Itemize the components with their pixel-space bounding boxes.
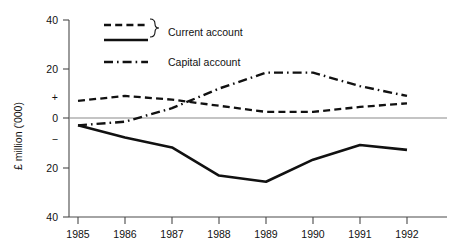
y-axis-title: £ million ('000) [12,102,24,170]
legend-brace-icon [150,19,159,37]
balance-of-payments-line-chart: 40 20 + 0 − 20 40 £ million ('000) 1985 … [0,0,459,249]
y-tick-label: 20 [46,63,58,75]
series-current-account-solid [78,125,407,181]
legend-label-capital-account: Capital account [168,56,240,68]
x-tick-label: 1990 [301,228,325,240]
y-tick-label: 20 [46,162,58,174]
chart-root: 40 20 + 0 − 20 40 £ million ('000) 1985 … [0,0,459,249]
series-capital-account-dashdot [78,73,407,126]
y-tick-label-minus: − [52,133,58,145]
x-axis-ticks [78,217,407,224]
series-current-account-dashed [78,96,407,112]
y-tick-label-plus: + [52,91,58,103]
x-tick-label: 1985 [66,228,90,240]
x-tick-label: 1992 [395,228,419,240]
x-tick-label: 1986 [113,228,137,240]
y-axis-tick-labels: 40 20 + 0 − 20 40 [46,14,58,223]
legend-label-current-account: Current account [168,26,243,38]
x-axis-tick-labels: 1985 1986 1987 1988 1989 1990 1991 1992 [66,228,419,240]
y-tick-label: 40 [46,211,58,223]
y-tick-label: 40 [46,14,58,26]
chart-legend: Current account Capital account [104,19,243,68]
x-tick-label: 1989 [254,228,278,240]
x-tick-label: 1987 [160,228,184,240]
x-tick-label: 1988 [207,228,231,240]
x-tick-label: 1991 [348,228,372,240]
y-tick-label: 0 [52,112,58,124]
y-axis-ticks [63,20,69,217]
